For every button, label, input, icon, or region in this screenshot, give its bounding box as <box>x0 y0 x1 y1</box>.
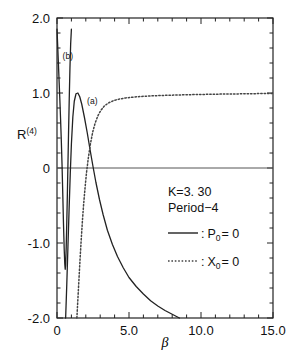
x-tick-label: 0 <box>53 323 60 338</box>
y-tick-label: -2.0 <box>28 311 50 326</box>
x-axis-title: β <box>161 335 169 350</box>
legend-entry-1-separator: : <box>201 255 204 269</box>
annotation-b: (b) <box>63 51 74 61</box>
x-tick-label: 10.0 <box>188 323 213 338</box>
figure-container: 05.010.015.02.01.00-1.0-2.0 (b)(a) R(4) … <box>0 0 286 353</box>
annotation-a: (a) <box>87 96 98 106</box>
y-tick-label: 0 <box>43 161 50 176</box>
legend-caption-k: K=3. 30 <box>168 185 211 199</box>
legend-entry-1-equals: = 0 <box>222 255 240 269</box>
x-tick-label: 15.0 <box>260 323 285 338</box>
legend-entry-0-separator: : <box>201 227 204 241</box>
y-axis-title-main: R <box>17 127 26 142</box>
y-tick-label: 2.0 <box>32 11 50 26</box>
y-axis-title-superscript: (4) <box>26 126 37 136</box>
legend-caption-period: Period−4 <box>168 201 218 215</box>
chart-background <box>0 0 286 353</box>
y-tick-label: -1.0 <box>28 236 50 251</box>
y-tick-label: 1.0 <box>32 86 50 101</box>
legend-entry-0-symbol: P <box>207 227 215 241</box>
legend-entry-0-equals: = 0 <box>222 227 240 241</box>
x-tick-label: 5.0 <box>120 323 138 338</box>
legend-entry-1-subscript: 0 <box>216 261 221 271</box>
scientific-line-chart: 05.010.015.02.01.00-1.0-2.0 (b)(a) R(4) … <box>0 0 286 353</box>
legend-entry-0-subscript: 0 <box>216 233 221 243</box>
